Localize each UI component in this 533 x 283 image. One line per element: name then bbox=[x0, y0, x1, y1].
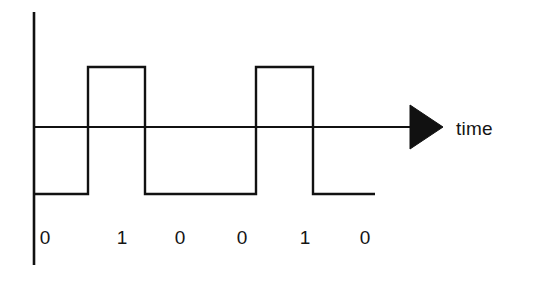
arrow-right-icon bbox=[410, 105, 443, 149]
bit-label-3: 0 bbox=[231, 228, 253, 247]
time-axis-label: time bbox=[456, 119, 493, 138]
signal-waveform-path bbox=[34, 67, 375, 194]
bit-label-1: 1 bbox=[111, 228, 133, 247]
waveform-figure: 0 1 0 0 1 0 time bbox=[0, 0, 533, 283]
bit-label-2: 0 bbox=[169, 228, 191, 247]
bit-label-0: 0 bbox=[34, 228, 56, 247]
bit-label-4: 1 bbox=[294, 228, 316, 247]
bit-label-5: 0 bbox=[354, 228, 376, 247]
waveform-diagram bbox=[0, 0, 533, 283]
